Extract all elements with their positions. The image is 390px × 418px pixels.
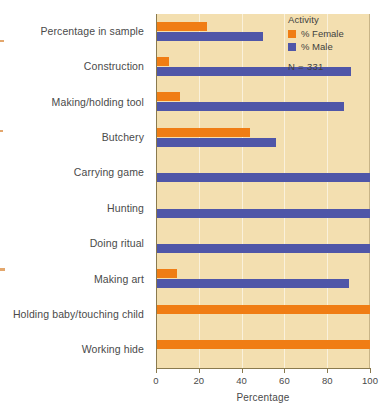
bar-chart-figure: Percentage in sampleConstructionMaking/h… — [0, 0, 390, 418]
category-label: Making art — [0, 274, 144, 285]
legend-swatch-male-icon — [288, 43, 296, 51]
bar-group — [156, 191, 370, 226]
bar-male — [156, 244, 370, 253]
category-label: Doing ritual — [0, 238, 144, 249]
category-label: Carrying game — [0, 167, 144, 178]
x-axis-title: Percentage — [156, 392, 370, 403]
bar-female — [156, 22, 207, 31]
category-label: Making/holding tool — [0, 97, 144, 108]
legend-item-female: % Female — [288, 28, 384, 39]
bar-group — [156, 262, 370, 297]
category-label: Construction — [0, 61, 144, 72]
bar-male — [156, 279, 349, 288]
x-axis-tick-label: 60 — [279, 375, 290, 386]
legend-label-female: % Female — [301, 28, 344, 39]
bar-group — [156, 120, 370, 155]
x-axis-line — [156, 368, 370, 369]
bar-female — [156, 57, 169, 66]
bar-group — [156, 226, 370, 261]
legend-title: Activity — [288, 14, 384, 25]
category-label: Holding baby/touching child — [0, 309, 144, 320]
x-axis-tick — [242, 368, 243, 373]
x-axis-tick-label: 0 — [153, 375, 158, 386]
bar-group — [156, 85, 370, 120]
x-axis-tick-label: 80 — [322, 375, 333, 386]
legend: Activity % Female % Male N = 331 — [288, 14, 384, 72]
bar-female — [156, 269, 177, 278]
category-label: Butchery — [0, 132, 144, 143]
legend-swatch-female-icon — [288, 30, 296, 38]
bar-female — [156, 92, 180, 101]
x-axis-tick — [327, 368, 328, 373]
legend-label-male: % Male — [301, 41, 333, 52]
x-axis-tick — [199, 368, 200, 373]
bar-female — [156, 340, 370, 349]
bar-group — [156, 297, 370, 332]
bar-group — [156, 156, 370, 191]
bar-female — [156, 305, 370, 314]
x-axis-tick — [284, 368, 285, 373]
bar-male — [156, 32, 263, 41]
category-axis: Percentage in sampleConstructionMaking/h… — [0, 14, 150, 368]
category-label: Working hide — [0, 344, 144, 355]
bar-male — [156, 102, 344, 111]
legend-item-male: % Male — [288, 41, 384, 52]
x-axis-tick-label: 100 — [362, 375, 378, 386]
bar-male — [156, 209, 370, 218]
bar-male — [156, 173, 370, 182]
x-axis-tick-label: 40 — [236, 375, 247, 386]
bar-group — [156, 333, 370, 368]
category-label: Hunting — [0, 203, 144, 214]
bar-female — [156, 128, 250, 137]
category-label: Percentage in sample — [0, 26, 144, 37]
bar-male — [156, 138, 276, 147]
x-axis-tick — [156, 368, 157, 373]
sample-size-note: N = 331 — [288, 61, 384, 72]
x-axis-tick — [370, 368, 371, 373]
y-axis-line — [156, 14, 157, 369]
x-axis-tick-label: 20 — [194, 375, 205, 386]
